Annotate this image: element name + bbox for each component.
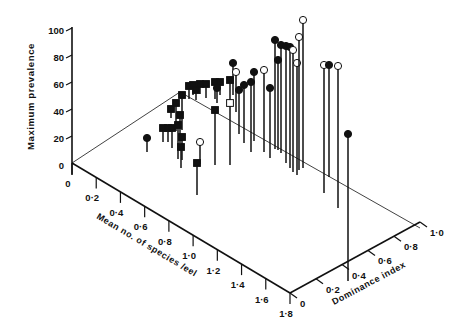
filled-square-marker (178, 144, 185, 151)
filled-circle-marker (325, 61, 332, 68)
filled-square-marker (212, 107, 219, 114)
floor-edges (72, 92, 420, 228)
x-tick-label: 0·2 (85, 192, 99, 203)
filled-circle-marker (229, 59, 236, 66)
filled-square-marker (179, 134, 186, 141)
z-tick-label: 60 (53, 79, 64, 90)
open-circle-marker (295, 33, 302, 40)
z-tick-label: 100 (48, 25, 64, 36)
x-tick-label: 0·6 (134, 221, 148, 232)
data-stems (143, 16, 351, 281)
open-circle-marker (334, 62, 341, 69)
z-axis-title: Maximum prevalence (25, 43, 36, 150)
filled-circle-marker (271, 36, 278, 43)
y-axis: 00·20·40·60·81·0 Dominance index (290, 222, 444, 309)
open-circle-marker (260, 66, 267, 73)
filled-circle-marker (266, 84, 273, 91)
x-axis-ticks: 00·20·40·60·81·01·21·41·61·8 (65, 163, 293, 319)
x-tick-label: 0 (65, 178, 70, 189)
y-tick-label: 0·6 (378, 255, 392, 266)
y-tick-label: 0·8 (404, 241, 418, 252)
open-circle-marker (289, 46, 296, 53)
filled-square-marker (175, 122, 182, 129)
x-tick-label: 0·4 (110, 207, 124, 218)
x-axis: 00·20·40·60·81·01·21·41·61·8 Mean no. of… (65, 163, 293, 319)
filled-circle-marker (240, 81, 247, 88)
x-tick-label: 1·8 (279, 308, 293, 319)
z-axis-ticks: 020406080100 (48, 25, 72, 171)
x-tick-label: 1·0 (182, 250, 196, 261)
stem-plot-3d: 020406080100 Maximum prevalence 00·20·40… (0, 0, 452, 328)
filled-square-marker (179, 92, 186, 99)
z-tick-label: 40 (53, 106, 64, 117)
open-circle-marker (196, 138, 203, 145)
z-tick-label: 80 (53, 52, 64, 63)
filled-circle-marker (344, 130, 351, 137)
filled-circle-marker (143, 134, 150, 141)
y-axis-ticks: 00·20·40·60·81·0 (290, 222, 444, 309)
filled-circle-marker (250, 68, 257, 75)
open-square-marker (227, 100, 234, 107)
x-tick-label: 1·6 (255, 294, 269, 305)
open-circle-marker (299, 16, 306, 23)
open-circle-marker (232, 68, 239, 75)
z-tick-label: 20 (53, 133, 64, 144)
z-tick-label: 0 (59, 160, 64, 171)
filled-square-marker (203, 81, 210, 88)
x-tick-label: 0·8 (158, 236, 172, 247)
y-axis-title: Dominance index (330, 259, 407, 306)
filled-square-marker (194, 160, 201, 167)
y-tick-label: 0 (300, 298, 305, 309)
y-tick-label: 1·0 (430, 227, 444, 238)
filled-circle-marker (213, 84, 220, 91)
z-axis: 020406080100 Maximum prevalence (25, 25, 72, 175)
x-tick-label: 1·4 (231, 279, 245, 290)
x-tick-label: 1·2 (206, 265, 220, 276)
filled-square-marker (173, 100, 180, 107)
